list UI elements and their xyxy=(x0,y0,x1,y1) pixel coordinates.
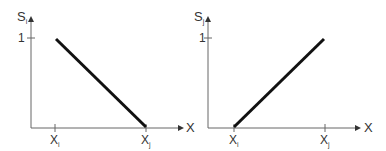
diagram-canvas: Si 1 Xi Xj X Sj 1 Xi Xj X xyxy=(0,0,386,151)
x-tick-label-i: Xi xyxy=(229,133,239,148)
series-line-decreasing xyxy=(56,39,146,127)
y-axis-label: Sj xyxy=(194,9,205,26)
y-axis-label: Si xyxy=(17,9,28,25)
x-axis-label: X xyxy=(364,120,373,135)
chart-right: Sj 1 Xi Xj X xyxy=(194,9,373,149)
y-tick-label: 1 xyxy=(18,31,25,45)
series-line-increasing xyxy=(234,39,324,127)
y-tick-label: 1 xyxy=(199,31,206,45)
x-axis-label: X xyxy=(186,120,195,135)
chart-left: Si 1 Xi Xj X xyxy=(17,9,195,149)
x-tick-label-j: Xj xyxy=(141,133,151,149)
x-tick-label-i: Xi xyxy=(50,133,60,148)
x-tick-label-j: Xj xyxy=(320,133,330,149)
